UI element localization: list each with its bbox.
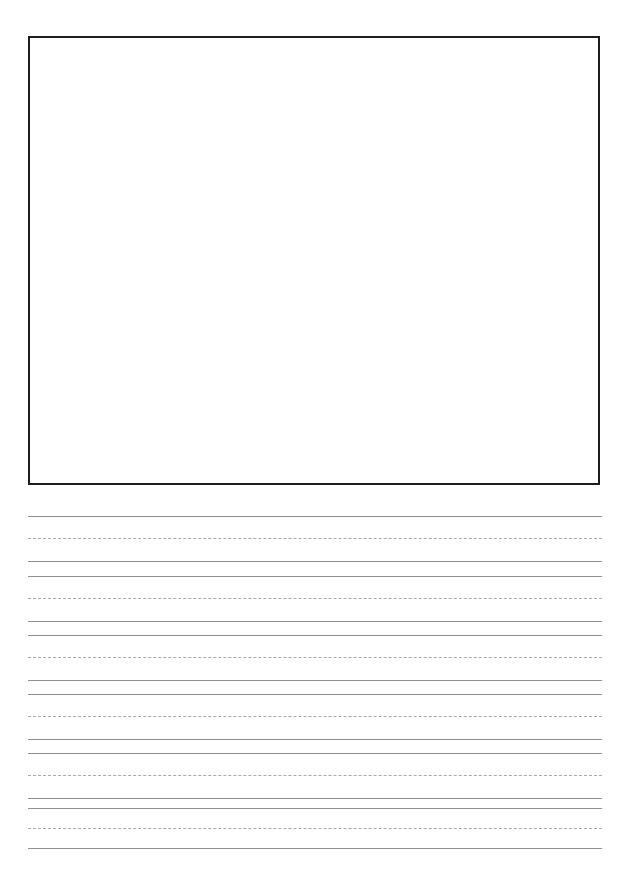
handwriting-line-group-2[interactable]	[28, 576, 602, 621]
rule-top-solid-3	[28, 635, 602, 636]
handwriting-line-group-3[interactable]	[28, 635, 602, 680]
rule-baseline-3	[28, 680, 602, 681]
rule-baseline-5	[28, 798, 602, 799]
rule-mid-dashed-1	[28, 538, 602, 539]
rule-mid-dashed-4	[28, 716, 602, 717]
worksheet-page	[0, 0, 638, 880]
handwriting-line-group-1[interactable]	[28, 516, 602, 561]
rule-top-solid-5	[28, 753, 602, 754]
rule-baseline-6	[28, 848, 602, 849]
handwriting-lines-area	[0, 0, 638, 880]
rule-top-solid-4	[28, 694, 602, 695]
rule-baseline-4	[28, 739, 602, 740]
rule-mid-dashed-5	[28, 775, 602, 776]
rule-mid-dashed-2	[28, 598, 602, 599]
handwriting-line-group-6[interactable]	[28, 808, 602, 848]
handwriting-line-group-4[interactable]	[28, 694, 602, 739]
rule-top-solid-6	[28, 808, 602, 809]
rule-mid-dashed-3	[28, 657, 602, 658]
rule-top-solid-2	[28, 576, 602, 577]
rule-top-solid-1	[28, 516, 602, 517]
rule-baseline-1	[28, 561, 602, 562]
rule-mid-dashed-6	[28, 828, 602, 829]
handwriting-line-group-5[interactable]	[28, 753, 602, 798]
rule-baseline-2	[28, 621, 602, 622]
